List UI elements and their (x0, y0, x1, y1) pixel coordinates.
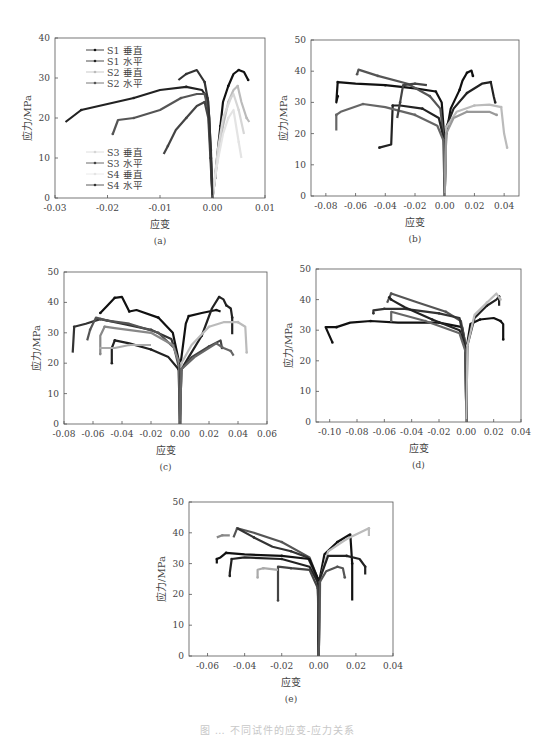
data-marker (111, 362, 114, 365)
series-group (335, 70, 508, 196)
y-tick-label: 10 (300, 386, 312, 396)
x-tick-label: 0.04 (494, 201, 514, 211)
data-marker (435, 90, 438, 93)
data-marker (495, 114, 498, 117)
y-tick-label: 20 (295, 129, 307, 139)
data-marker (180, 97, 183, 100)
series-line (445, 112, 497, 196)
data-marker (351, 562, 354, 565)
y-tick-label: 20 (173, 589, 185, 599)
data-marker (210, 149, 213, 152)
data-marker (256, 576, 259, 579)
y-tick-label: 0 (305, 417, 311, 427)
data-marker (414, 114, 417, 117)
series-line (466, 318, 503, 422)
data-marker (230, 558, 233, 561)
series-line (326, 321, 467, 422)
data-marker (390, 320, 393, 323)
data-marker (247, 79, 250, 82)
x-tick-label: -0.06 (344, 201, 367, 211)
panel-label: (b) (409, 234, 422, 244)
y-axis-label: 应力/MPa (277, 95, 289, 141)
x-tick-label: -0.08 (314, 201, 337, 211)
x-tick-label: -0.06 (373, 427, 396, 437)
data-marker (431, 318, 434, 321)
data-marker (369, 320, 372, 323)
y-tick-label: 0 (44, 193, 50, 203)
x-tick-label: 0.04 (228, 429, 248, 439)
data-marker (203, 101, 206, 104)
data-marker (208, 325, 211, 328)
data-marker (458, 89, 461, 92)
x-axis-label: 应变 (156, 444, 176, 456)
x-tick-label: -0.03 (43, 203, 66, 213)
legend-marker (94, 49, 97, 52)
y-tick-label: 20 (39, 113, 51, 123)
data-marker (150, 332, 153, 335)
y-tick-label: 30 (48, 328, 60, 338)
data-marker (229, 350, 232, 353)
data-marker (99, 347, 102, 350)
data-marker (203, 81, 206, 84)
x-tick-label: -0.02 (139, 429, 162, 439)
y-tick-label: 30 (39, 73, 51, 83)
data-marker (277, 599, 280, 602)
y-tick-label: 10 (173, 620, 185, 630)
data-marker (245, 351, 248, 354)
series-line (319, 528, 369, 656)
data-marker (391, 104, 394, 107)
legend-marker (94, 173, 97, 176)
series-line (466, 297, 499, 423)
data-marker (231, 316, 234, 319)
data-marker (80, 109, 83, 112)
data-marker (185, 117, 188, 120)
legend-label: S1 水平 (107, 56, 143, 67)
data-marker (99, 353, 102, 356)
chart-panel-d: -0.10-0.08-0.06-0.04-0.020.000.020.04010… (282, 264, 531, 470)
data-marker (466, 92, 469, 95)
x-tick-label: 0.00 (170, 429, 190, 439)
data-marker (237, 69, 240, 72)
y-tick-label: 50 (295, 35, 307, 45)
series-line (100, 327, 180, 424)
series-line (230, 557, 319, 656)
x-tick-label: 0.02 (346, 661, 366, 671)
data-marker (372, 312, 375, 315)
data-marker (237, 109, 240, 112)
data-marker (111, 133, 114, 136)
x-axis-label: 应变 (281, 676, 301, 688)
data-marker (335, 326, 338, 329)
data-marker (424, 320, 427, 323)
data-marker (245, 117, 248, 120)
data-marker (445, 126, 448, 129)
data-marker (225, 304, 228, 307)
data-marker (290, 567, 293, 570)
data-marker (364, 565, 367, 568)
y-axis-label: 应力/MPa (21, 95, 33, 141)
data-marker (237, 141, 240, 144)
y-axis-label: 应力/MPa (282, 323, 294, 369)
x-tick-label: -0.02 (427, 427, 450, 437)
data-marker (132, 97, 135, 100)
series-group (326, 292, 505, 422)
y-tick-label: 10 (295, 160, 307, 170)
data-marker (237, 321, 240, 324)
y-tick-label: 50 (300, 264, 312, 274)
data-marker (89, 328, 92, 331)
chart-panel-b: -0.08-0.06-0.04-0.020.000.020.0401020304… (277, 35, 519, 244)
data-marker (378, 146, 381, 149)
data-marker (429, 95, 432, 98)
data-marker (215, 165, 218, 168)
data-marker (336, 95, 339, 98)
data-marker (356, 73, 359, 76)
panel-label: (e) (285, 694, 297, 704)
data-marker (187, 315, 190, 318)
data-marker (73, 325, 76, 328)
data-marker (185, 73, 188, 76)
data-marker (336, 541, 339, 544)
series-group (216, 527, 371, 656)
data-marker (499, 298, 502, 301)
data-marker (336, 565, 339, 568)
data-marker (466, 110, 469, 113)
series-line (258, 568, 278, 577)
